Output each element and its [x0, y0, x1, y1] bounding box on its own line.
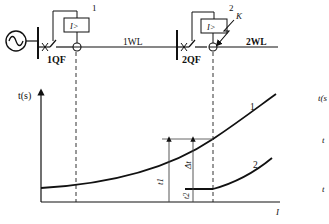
- t1-label: t1: [155, 178, 165, 185]
- curve-1-label: 1: [250, 102, 255, 112]
- relay-2-label: I>: [206, 22, 216, 32]
- x-axis-label: I: [275, 207, 280, 217]
- breaker-2qf-icon: [177, 40, 207, 51]
- breaker-2-label: 2QF: [182, 54, 201, 65]
- cropped-t-label-a: t: [322, 135, 325, 145]
- relay-2-number: 2: [229, 3, 234, 13]
- t2-label: t2: [182, 193, 191, 199]
- relay-1-label: I>: [69, 21, 79, 31]
- relay-1-number: 1: [92, 3, 97, 13]
- breaker-1qf-icon: [38, 40, 73, 51]
- fault-arrow-icon: [218, 20, 234, 44]
- delta-t-label: Δt: [183, 161, 193, 170]
- y-axis-label: t(s): [18, 90, 31, 102]
- fault-point-label: K: [235, 11, 243, 21]
- line-1-label: 1WL: [123, 37, 143, 47]
- curve-2-label: 2: [253, 160, 258, 170]
- protection-coordination-diagram: 1QF I> 1 1WL 2QF I> 2 K 2WL t(s) I: [0, 0, 329, 224]
- current-transformer-2-icon: [209, 43, 217, 51]
- line-2-label: 2WL: [246, 37, 267, 47]
- cropped-t-label-b: t: [322, 184, 325, 194]
- breaker-1-label: 1QF: [47, 54, 66, 65]
- curve-2: [185, 158, 272, 189]
- cropped-y-label: t(s: [318, 93, 327, 103]
- ac-source-icon: [6, 31, 26, 51]
- current-transformer-1-icon: [73, 43, 81, 51]
